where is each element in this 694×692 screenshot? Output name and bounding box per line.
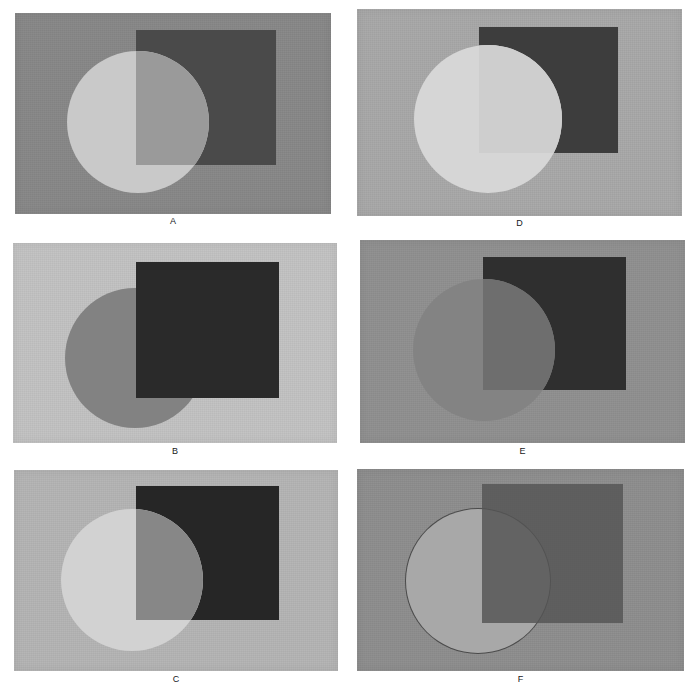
- panel-a-caption: A: [15, 216, 331, 227]
- panel-e-caption: E: [360, 446, 685, 457]
- panel-d-caption: D: [357, 218, 682, 229]
- panel-e: [360, 240, 685, 443]
- panel-b-caption: B: [13, 446, 337, 457]
- panel-b-square: [136, 262, 279, 398]
- panel-d-overlap-region: [479, 27, 618, 153]
- panel-c-overlap-disk: [136, 509, 203, 620]
- panel-b: [13, 243, 337, 443]
- panel-e-overlap-region: [483, 257, 626, 390]
- panel-c-overlap-region: [136, 486, 279, 620]
- panel-f: [357, 469, 684, 671]
- panel-a: [15, 13, 331, 214]
- panel-c-caption: C: [14, 674, 338, 685]
- figure-six-panel-plate: A D B E C: [0, 0, 694, 692]
- panel-e-overlap-disk: [483, 279, 555, 390]
- panel-a-overlap-disk: [136, 51, 209, 165]
- panel-d-overlap-disk: [479, 45, 562, 153]
- panel-d: [357, 9, 682, 216]
- panel-c: [14, 470, 338, 671]
- panel-f-square: [482, 484, 623, 623]
- panel-a-overlap-region: [136, 30, 276, 165]
- panel-f-caption: F: [357, 674, 684, 685]
